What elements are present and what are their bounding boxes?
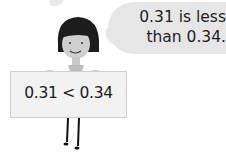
held-sign: 0.31 < 0.34 bbox=[10, 71, 127, 118]
illustration-scene: 0.31 is less than 0.34. 0.31 < 0.34 bbox=[0, 0, 226, 156]
sign-inequality-text: 0.31 < 0.34 bbox=[11, 84, 126, 102]
